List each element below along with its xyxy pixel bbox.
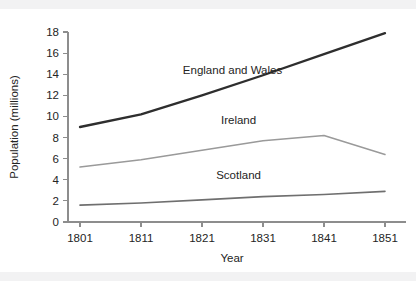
x-tick-label: 1801 bbox=[67, 232, 93, 244]
line-chart-plot: 024681012141618 180118111821183118411851… bbox=[0, 0, 416, 281]
x-tick-label: 1821 bbox=[189, 232, 215, 244]
y-tick-label: 6 bbox=[53, 153, 59, 165]
x-axis-tick-group: 180118111821183118411851 bbox=[67, 222, 398, 244]
y-tick-label: 12 bbox=[46, 89, 59, 101]
y-tick-label: 14 bbox=[46, 68, 59, 80]
y-tick-label: 8 bbox=[53, 132, 59, 144]
x-axis-title: Year bbox=[220, 252, 243, 264]
series-line-ireland bbox=[80, 135, 385, 167]
x-tick-label: 1811 bbox=[129, 232, 154, 244]
y-tick-label: 0 bbox=[53, 216, 59, 228]
y-tick-label: 10 bbox=[46, 110, 59, 122]
y-axis-title: Population (millions) bbox=[8, 75, 20, 179]
series-label-england-and-wales: England and Wales bbox=[183, 64, 283, 76]
series-line-scotland bbox=[80, 191, 385, 205]
y-tick-label: 18 bbox=[46, 26, 59, 38]
x-tick-label: 1841 bbox=[311, 232, 337, 244]
series-label-group: England and WalesIrelandScotland bbox=[183, 64, 283, 181]
y-tick-label: 2 bbox=[53, 195, 59, 207]
y-tick-label: 4 bbox=[53, 174, 60, 186]
y-tick-label: 16 bbox=[46, 47, 59, 59]
y-axis-tick-group: 024681012141618 bbox=[46, 26, 68, 228]
x-tick-label: 1851 bbox=[372, 232, 398, 244]
series-label-scotland: Scotland bbox=[216, 169, 261, 181]
chart-figure: 024681012141618 180118111821183118411851… bbox=[0, 0, 416, 281]
series-label-ireland: Ireland bbox=[221, 114, 256, 126]
x-tick-label: 1831 bbox=[250, 232, 276, 244]
